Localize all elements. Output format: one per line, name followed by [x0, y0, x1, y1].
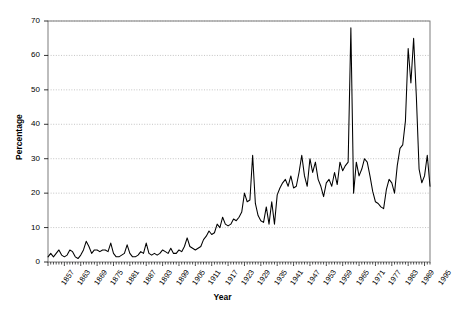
- y-axis-tick-label: 20: [16, 189, 40, 197]
- y-axis-tick-label: 70: [16, 17, 40, 25]
- axis-ticks: [44, 21, 430, 266]
- data-series-line: [48, 28, 430, 259]
- series-line: [48, 28, 430, 259]
- y-axis-title: Percentage: [14, 114, 24, 160]
- y-axis-tick-label: 60: [16, 51, 40, 59]
- y-axis-tick-label: 10: [16, 224, 40, 232]
- y-axis-tick-label: 0: [16, 258, 40, 266]
- plot-frame: [48, 21, 430, 262]
- y-axis-tick-label: 50: [16, 86, 40, 94]
- x-axis-title: Year: [0, 292, 445, 302]
- gridlines: [48, 21, 430, 228]
